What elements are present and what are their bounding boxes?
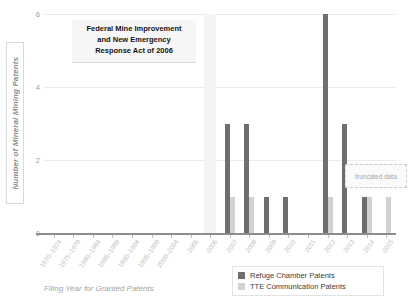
chart-legend: Refuge Chamber Patents TTE Communication… (232, 266, 384, 296)
x-axis-tick-label: 2011 (303, 238, 317, 253)
legend-label-refuge-chamber-patents: Refuge Chamber Patents (250, 271, 335, 280)
legend-item-tte-communication-patents: TTE Communication Patents (238, 281, 378, 292)
x-axis-tick (152, 235, 153, 238)
truncated-data-annotation: truncated data (345, 164, 407, 188)
legend-label-tte-communication-patents: TTE Communication Patents (250, 282, 346, 291)
truncated-data-label: truncated data (355, 173, 397, 180)
y-axis-tick-label: 4 (36, 83, 40, 92)
x-axis-tick (328, 235, 329, 238)
x-axis-tick (112, 235, 113, 238)
callout-line-3: Response Act of 2006 (75, 46, 193, 57)
x-axis-tick (93, 235, 94, 238)
x-axis-tick-label: 2014 (361, 238, 375, 254)
y-axis-tick-label: 0 (36, 229, 40, 238)
bar-tte-communication-patents-2014 (367, 197, 372, 234)
x-axis-title: Filing Year for Granted Patents (44, 284, 154, 293)
x-axis-tick (132, 235, 133, 238)
x-axis-tick (367, 235, 368, 238)
legend-swatch-tte-communication-patents (238, 283, 245, 290)
event-marker-band (204, 14, 216, 233)
x-axis-tick (249, 235, 250, 238)
bar-tte-communication-patents-2007 (230, 197, 235, 234)
event-callout: Federal Mine Improvement and New Emergen… (72, 20, 196, 63)
x-axis-tick-label: 2009 (264, 238, 278, 254)
x-axis-tick (171, 235, 172, 238)
chart-container: Number of Mineral Mining Patents 0246 Fe… (0, 0, 415, 308)
x-axis-tick-label: 2006 (205, 238, 219, 254)
x-axis-tick-label: 2010 (283, 238, 297, 254)
x-axis-tick (210, 235, 211, 238)
x-axis-tick (54, 235, 55, 238)
gridline (44, 87, 396, 88)
bar-tte-communication-patents-2008 (249, 197, 254, 234)
y-axis-title-box: Number of Mineral Mining Patents (6, 42, 24, 204)
callout-line-1: Federal Mine Improvement (75, 24, 193, 35)
x-axis-tick-label: 2013 (342, 238, 356, 254)
x-axis-tick (347, 235, 348, 238)
y-axis-tick-label: 2 (36, 156, 40, 165)
x-axis-tick (269, 235, 270, 238)
x-axis-tick (73, 235, 74, 238)
bar-refuge-chamber-patents-2010 (283, 197, 288, 234)
x-axis-tick-label: 2007 (224, 238, 238, 254)
x-axis-tick (386, 235, 387, 238)
legend-item-refuge-chamber-patents: Refuge Chamber Patents (238, 270, 378, 281)
y-axis-title: Number of Mineral Mining Patents (11, 57, 20, 190)
x-axis-tick-label: 2015 (381, 238, 395, 254)
x-axis-tick (191, 235, 192, 238)
x-axis-tick-label: 2005 (185, 238, 199, 254)
callout-line-2: and New Emergency (75, 35, 193, 46)
x-axis-tick (230, 235, 231, 238)
bar-refuge-chamber-patents-2009 (264, 197, 269, 234)
x-axis-tick (288, 235, 289, 238)
gridline (44, 14, 396, 15)
x-axis-tick-label: 2008 (244, 238, 258, 254)
y-axis-tick-label: 6 (36, 10, 40, 19)
legend-swatch-refuge-chamber-patents (238, 272, 245, 279)
x-axis-tick (308, 235, 309, 238)
bar-tte-communication-patents-2015 (386, 197, 391, 234)
bar-tte-communication-patents-2012 (328, 197, 333, 234)
x-axis-tick-label: 2012 (322, 238, 336, 254)
